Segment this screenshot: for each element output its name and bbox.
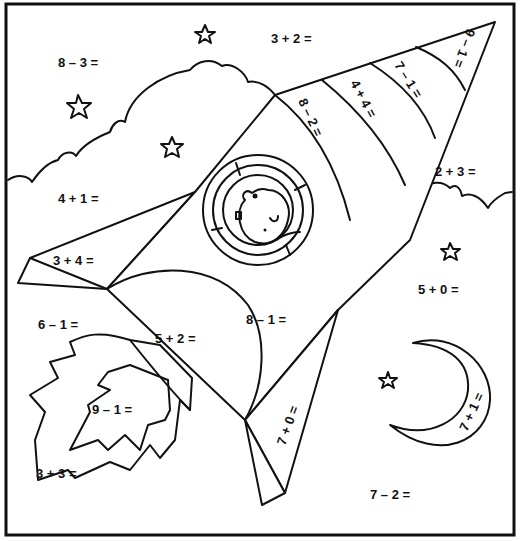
problem-sky-right: 5 + 0 = xyxy=(418,282,459,297)
problem-wing-left: 3 + 4 = xyxy=(53,253,94,268)
problem-flame-inner: 9 – 1 = xyxy=(92,402,133,417)
rocket-illustration: 8 – 3 = 3 + 2 = 4 + 1 = 3 + 4 = 6 – 1 = … xyxy=(0,0,520,541)
problem-rocket-body-lower: 5 + 2 = xyxy=(155,331,196,346)
problem-sky-bottom-right: 7 – 2 = xyxy=(370,487,411,502)
problem-cloud-right: 2 + 3 = xyxy=(435,164,476,179)
problem-sky-left: 6 – 1 = xyxy=(38,317,79,332)
coloring-worksheet: 8 – 3 = 3 + 2 = 4 + 1 = 3 + 4 = 6 – 1 = … xyxy=(0,0,520,541)
porthole xyxy=(203,155,313,265)
problem-rocket-body-middle: 8 – 1 = xyxy=(246,312,287,327)
problem-sky-top: 3 + 2 = xyxy=(271,31,312,46)
problem-flame-outer: 3 + 3 = xyxy=(36,466,77,481)
problem-cloud-left: 4 + 1 = xyxy=(58,191,99,206)
problem-sky-top-left: 8 – 3 = xyxy=(58,55,99,70)
